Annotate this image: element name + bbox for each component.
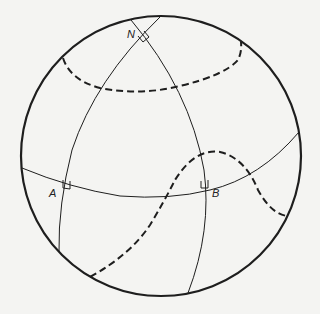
label-B: B xyxy=(212,187,219,199)
meridian-through-A xyxy=(59,17,160,252)
equator-great-circle xyxy=(22,132,299,197)
upper-dashed-curve xyxy=(63,42,241,92)
sphere-diagram: N A B xyxy=(0,0,320,314)
meridian-through-B xyxy=(131,20,206,293)
diagram-canvas: N A B xyxy=(0,0,320,314)
label-A: A xyxy=(48,187,56,199)
right-angle-at-B xyxy=(201,180,208,188)
label-N: N xyxy=(127,28,135,40)
